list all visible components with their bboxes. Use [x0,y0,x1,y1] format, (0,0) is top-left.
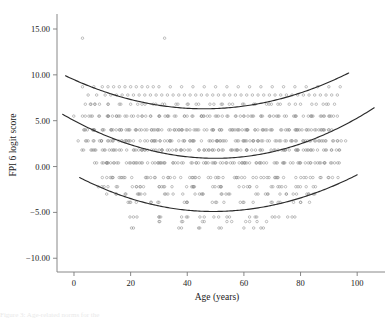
data-point [279,103,282,106]
data-point [141,86,144,89]
data-point [214,86,217,89]
data-point [111,115,114,118]
data-point [313,94,316,97]
x-tick-label: 60 [240,278,249,288]
data-point [299,103,302,106]
data-point [127,94,130,97]
data-point [248,220,251,223]
data-point [282,176,285,179]
data-point [333,162,336,165]
y-tick-label: 10.00 [31,70,50,80]
data-point [247,115,250,118]
data-point [288,103,291,106]
data-point [314,162,317,165]
data-point [338,162,341,165]
data-point [172,193,175,196]
data-point [292,201,295,204]
data-point [192,86,195,89]
data-point [261,149,264,152]
data-point [289,162,292,165]
data-point [277,103,280,106]
data-point [117,162,120,165]
data-point [87,94,90,97]
data-point [328,86,331,89]
data-point [213,216,216,219]
data-point [144,193,147,196]
data-point [183,115,186,118]
data-point [178,227,181,230]
data-point [173,176,176,179]
data-point [182,162,185,165]
x-tick-label: 100 [351,278,364,288]
data-point [304,162,307,165]
data-point [140,129,143,132]
data-point [240,176,243,179]
data-point [234,94,237,97]
data-point [243,115,246,118]
y-tick-label: −10.00 [26,253,50,263]
data-point [98,103,101,106]
data-point [294,216,297,219]
data-point [254,149,257,152]
data-point [307,115,310,118]
data-point [233,162,236,165]
data-point [144,94,147,97]
data-point [217,94,220,97]
data-point [262,94,265,97]
data-point [173,115,176,118]
data-point [136,103,139,106]
data-point [81,37,84,40]
data-point [223,94,226,97]
data-point [131,185,134,188]
data-point [81,115,84,118]
data-point [257,129,260,132]
data-point [257,94,260,97]
data-point [244,220,247,223]
data-point [285,193,288,196]
data-point [107,86,110,89]
data-point [255,176,258,179]
data-point [209,103,212,106]
data-point [105,193,108,196]
data-point [73,115,76,118]
data-point [325,94,328,97]
data-point [212,94,215,97]
y-tick-label: 0.00 [35,162,50,172]
data-point [272,115,275,118]
data-point [194,193,197,196]
data-point [271,86,274,89]
data-point [130,176,133,179]
data-point [149,94,152,97]
data-point [263,176,266,179]
x-tick-label: 40 [183,278,192,288]
data-point [172,94,175,97]
data-point [106,176,109,179]
data-point [197,103,200,106]
data-point [84,103,87,106]
data-point [239,115,242,118]
data-point [132,140,135,143]
data-point [332,115,335,118]
data-point [203,216,206,219]
data-point [322,149,325,152]
data-point [117,115,120,118]
y-tick-label: −5.00 [30,207,50,217]
data-point [171,149,174,152]
data-point [294,86,297,89]
data-point [249,140,252,143]
data-point [137,115,140,118]
figure-caption-sliver: Figure 3: Age-related norms for the [0,311,390,320]
data-point [242,185,245,188]
data-point [183,94,186,97]
data-point [292,193,295,196]
data-point [189,129,192,132]
data-point [292,162,295,165]
data-point [199,216,202,219]
data-point [195,103,198,106]
data-point [182,193,185,196]
data-point [189,94,192,97]
data-point [118,86,121,89]
data-point [158,86,161,89]
data-point [239,201,242,204]
data-point [166,94,169,97]
